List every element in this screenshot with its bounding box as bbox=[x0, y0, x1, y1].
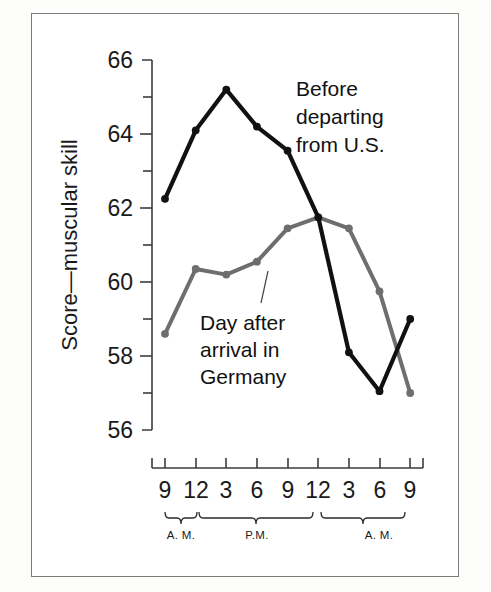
brace-am-2 bbox=[321, 512, 405, 524]
data-point bbox=[222, 86, 230, 94]
data-point bbox=[376, 287, 384, 295]
data-point bbox=[406, 315, 414, 323]
annotation-leader-line bbox=[261, 271, 268, 303]
line-chart: 66 64 62 60 58 56 Score—muscular skill bbox=[0, 0, 491, 592]
x-tick-label-7: 6 bbox=[374, 477, 387, 503]
annotation-line-after-1: Day after bbox=[200, 311, 285, 334]
x-axis-tick-labels: 9 12 3 6 9 12 3 6 9 bbox=[159, 477, 417, 503]
annotation-line-before-3: from U.S. bbox=[296, 133, 385, 156]
period-label-pm: P.M. bbox=[245, 529, 268, 541]
figure-root: 66 64 62 60 58 56 Score—muscular skill bbox=[0, 0, 491, 592]
y-tick-label-62: 62 bbox=[107, 195, 133, 221]
annotation-line-after-2: arrival in bbox=[200, 338, 279, 361]
x-tick-label-1: 12 bbox=[183, 477, 209, 503]
x-axis: 9 12 3 6 9 12 3 6 9 bbox=[152, 458, 423, 503]
annotation-line-before-1: Before bbox=[296, 77, 358, 100]
data-point bbox=[284, 224, 292, 232]
y-tick-label-64: 64 bbox=[107, 121, 133, 147]
data-point bbox=[222, 271, 230, 279]
x-tick-label-6: 3 bbox=[343, 477, 356, 503]
annotation-line-before-2: departing bbox=[296, 105, 384, 128]
x-tick-label-4: 9 bbox=[282, 477, 295, 503]
period-label-am-1: A. M. bbox=[167, 529, 195, 541]
data-point bbox=[161, 195, 169, 203]
x-tick-label-5: 12 bbox=[305, 477, 331, 503]
y-axis-title: Score—muscular skill bbox=[57, 139, 82, 351]
y-axis-ticks bbox=[140, 97, 152, 393]
brace-am-1 bbox=[165, 512, 197, 524]
annotation-line-after-3: Germany bbox=[200, 365, 287, 388]
data-point bbox=[345, 224, 353, 232]
brace-pm bbox=[199, 512, 313, 524]
data-point bbox=[284, 147, 292, 155]
x-tick-label-0: 9 bbox=[159, 477, 172, 503]
y-tick-label-60: 60 bbox=[107, 269, 133, 295]
period-brackets: A. M. P.M. A. M. bbox=[165, 512, 405, 541]
period-label-am-2: A. M. bbox=[365, 529, 393, 541]
y-axis: 66 64 62 60 58 56 Score—muscular skill bbox=[57, 47, 152, 443]
x-tick-label-8: 9 bbox=[404, 477, 417, 503]
y-tick-label-56: 56 bbox=[107, 417, 133, 443]
data-point bbox=[161, 330, 169, 338]
x-tick-label-2: 3 bbox=[220, 477, 233, 503]
data-point bbox=[253, 123, 261, 131]
data-point bbox=[253, 258, 261, 266]
y-tick-label-66: 66 bbox=[107, 47, 133, 73]
data-point bbox=[345, 348, 353, 356]
y-axis-tick-labels: 66 64 62 60 58 56 bbox=[107, 47, 133, 443]
data-point bbox=[314, 213, 322, 221]
data-point bbox=[192, 265, 200, 273]
annotation-day-after-arrival: Day after arrival in Germany bbox=[200, 271, 287, 388]
x-axis-ticks bbox=[165, 458, 410, 468]
x-tick-label-3: 6 bbox=[251, 477, 264, 503]
data-point bbox=[406, 389, 414, 397]
y-tick-label-58: 58 bbox=[107, 343, 133, 369]
data-point bbox=[192, 126, 200, 134]
data-point bbox=[376, 387, 384, 395]
annotation-before-departing: Before departing from U.S. bbox=[296, 77, 385, 156]
